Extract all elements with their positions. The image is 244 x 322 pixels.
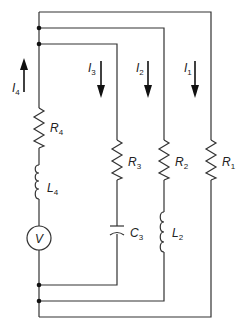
- label-l2: L2: [172, 226, 184, 242]
- inductor-l2: [160, 212, 164, 252]
- label-i2: I2: [136, 61, 144, 77]
- circuit-diagram: V I4 I3 I2 I1 R4 R3 R2 R1 L4 C3 L2: [0, 0, 244, 322]
- arrow-up-icon: [20, 58, 28, 92]
- inductor-l4: [35, 165, 39, 199]
- junction-dot: [37, 283, 42, 288]
- voltage-source-label: V: [35, 232, 44, 246]
- label-i1: I1: [184, 61, 192, 77]
- current-arrows: [20, 58, 199, 98]
- resistor-r2: [159, 140, 169, 180]
- arrow-down-icon: [191, 61, 199, 98]
- arrow-down-icon: [97, 61, 105, 98]
- resistor-r4: [34, 108, 44, 148]
- junction-dot: [37, 26, 42, 31]
- capacitor-c3: [110, 226, 124, 235]
- label-r1: R1: [222, 155, 236, 171]
- label-l4: L4: [47, 181, 59, 197]
- labels: I4 I3 I2 I1 R4 R3 R2 R1 L4 C3 L2: [12, 61, 236, 242]
- label-i3: I3: [88, 61, 96, 77]
- wire-top-r1: [39, 12, 211, 140]
- voltage-source: V: [27, 226, 51, 250]
- wire-r1-bottom: [39, 180, 211, 317]
- resistor-r1: [206, 140, 216, 180]
- junction-dot: [37, 42, 42, 47]
- arrow-down-icon: [144, 61, 152, 98]
- label-c3: C3: [130, 226, 144, 242]
- wire-l2-bottom: [39, 252, 164, 301]
- label-r4: R4: [50, 121, 64, 137]
- junction-dot: [37, 299, 42, 304]
- label-r2: R2: [175, 155, 189, 171]
- resistor-r3: [112, 140, 122, 180]
- label-i4: I4: [12, 81, 20, 97]
- label-r3: R3: [128, 155, 142, 171]
